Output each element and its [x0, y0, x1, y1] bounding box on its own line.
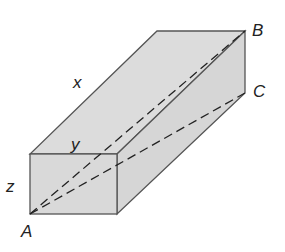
label-vertex-B: B — [252, 22, 263, 39]
prism-drawing — [0, 0, 285, 252]
label-y: y — [71, 136, 80, 153]
label-z: z — [6, 178, 15, 195]
label-vertex-C: C — [253, 83, 265, 100]
prism-front-face — [30, 154, 117, 214]
label-x: x — [73, 74, 82, 91]
diagram-canvas: x y z A B C — [0, 0, 285, 252]
label-vertex-A: A — [21, 223, 32, 240]
